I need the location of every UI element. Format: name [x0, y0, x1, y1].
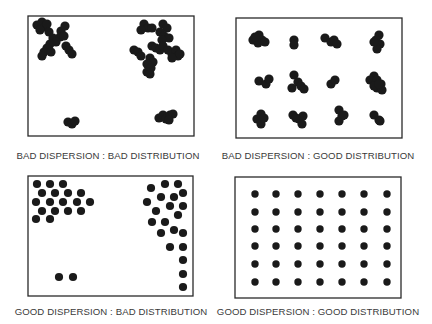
particle-dot: [64, 207, 72, 215]
particle-dot: [360, 208, 367, 215]
particle-dot: [383, 278, 390, 285]
particle-dot: [38, 189, 46, 197]
particle-dot: [170, 226, 178, 234]
particle-dot: [383, 260, 390, 267]
particle-dot: [251, 260, 258, 267]
panel-good-dispersion-bad-distribution: [28, 176, 193, 296]
particle-dot: [46, 47, 55, 56]
particle-dot: [164, 115, 173, 124]
particle-dot: [33, 180, 41, 188]
particle-dot: [179, 202, 187, 210]
particle-dot: [145, 69, 154, 78]
particle-dot: [55, 273, 63, 281]
particle-dot: [339, 110, 348, 119]
particle-dot: [60, 21, 69, 30]
particle-dot: [51, 207, 59, 215]
particle-dot: [316, 260, 323, 267]
caption-bad-dispersion-bad-distribution: BAD DISPERSION : BAD DISTRIBUTION: [17, 150, 200, 161]
particle-dot: [37, 51, 46, 60]
particle-dot: [375, 116, 384, 125]
particle-dot: [35, 25, 44, 34]
particle-dot: [338, 260, 345, 267]
particle-dot: [251, 190, 258, 197]
particle-dot: [287, 83, 296, 92]
dispersion-distribution-figure: [0, 0, 432, 324]
particle-dot: [338, 208, 345, 215]
particle-dot: [179, 256, 187, 264]
particle-dot: [136, 51, 145, 60]
particle-dot: [360, 190, 367, 197]
particle-dot: [179, 270, 187, 278]
particle-dot: [316, 225, 323, 232]
particle-dot: [338, 225, 345, 232]
particle-dot: [170, 193, 178, 201]
caption-good-dispersion-bad-distribution: GOOD DISPERSION : BAD DISTRIBUTION: [15, 306, 208, 317]
particle-dot: [294, 190, 301, 197]
panel-bad-dispersion-good-distribution: [236, 18, 402, 138]
particle-dot: [294, 208, 301, 215]
particle-dot: [330, 75, 339, 84]
particle-dot: [259, 113, 268, 122]
particle-dot: [272, 208, 279, 215]
particle-dot: [70, 116, 79, 125]
particle-dot: [136, 25, 145, 34]
particle-dot: [272, 225, 279, 232]
particle-dot: [174, 180, 182, 188]
particle-dot: [152, 207, 160, 215]
particle-dot: [64, 189, 72, 197]
particle-dot: [42, 19, 51, 28]
particle-dot: [51, 189, 59, 197]
particle-dot: [272, 242, 279, 249]
particle-dot: [272, 260, 279, 267]
particle-dot: [174, 211, 182, 219]
panel-bad-dispersion-bad-distribution: [28, 16, 194, 136]
particle-dot: [251, 208, 258, 215]
particle-dot: [383, 225, 390, 232]
particle-dot: [316, 242, 323, 249]
particle-dot: [46, 215, 54, 223]
particle-dot: [294, 278, 301, 285]
particle-dot: [360, 278, 367, 285]
particle-dot: [32, 198, 40, 206]
particle-dot: [272, 190, 279, 197]
particle-dot: [59, 31, 68, 40]
particle-dot: [179, 189, 187, 197]
particle-dot: [294, 260, 301, 267]
particle-dot: [147, 184, 155, 192]
particle-dot: [338, 242, 345, 249]
particle-dot: [251, 278, 258, 285]
particle-dot: [383, 242, 390, 249]
particle-dot: [73, 198, 81, 206]
particle-dot: [251, 225, 258, 232]
particle-dot: [316, 190, 323, 197]
particle-dot: [167, 53, 176, 62]
particle-dot: [59, 180, 67, 188]
particle-dot: [77, 189, 85, 197]
particle-dot: [161, 218, 169, 226]
particle-dot: [294, 242, 301, 249]
particle-dot: [157, 193, 165, 201]
particle-dot: [272, 278, 279, 285]
particle-dot: [175, 49, 184, 58]
particle-dot: [264, 74, 273, 83]
particle-dot: [46, 180, 54, 188]
particle-dot: [250, 32, 259, 41]
particle-dot: [86, 198, 94, 206]
particle-dot: [289, 40, 298, 49]
particle-dot: [46, 198, 54, 206]
particle-dot: [360, 260, 367, 267]
particle-dot: [166, 202, 174, 210]
particle-dot: [316, 278, 323, 285]
particle-dot: [338, 278, 345, 285]
panel-good-dispersion-good-distribution: [235, 177, 401, 298]
particle-dot: [299, 84, 308, 93]
particle-dot: [383, 208, 390, 215]
particle-dot: [369, 37, 378, 46]
particle-dot: [332, 39, 341, 48]
particle-dot: [316, 208, 323, 215]
particle-dot: [69, 273, 77, 281]
caption-bad-dispersion-good-distribution: BAD DISPERSION : GOOD DISTRIBUTION: [222, 150, 415, 161]
particle-dot: [166, 243, 174, 251]
particle-dot: [179, 243, 187, 251]
particle-dot: [383, 190, 390, 197]
